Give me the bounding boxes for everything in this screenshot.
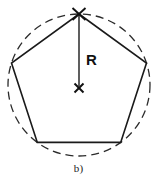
figure-caption: b) <box>0 162 157 174</box>
figure-container: R b) <box>0 0 157 180</box>
radius-label: R <box>86 51 97 68</box>
pentagon-in-circle-diagram: R <box>0 0 157 180</box>
